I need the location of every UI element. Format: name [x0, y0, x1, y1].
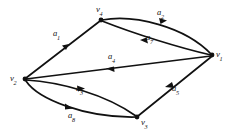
vertex-label-v4: v4 [96, 5, 103, 16]
graph-canvas [0, 0, 230, 135]
vertex-dot-v3 [135, 115, 140, 120]
arc-label-a7: a7 [146, 33, 153, 44]
arc-label-a4: a4 [108, 52, 115, 63]
arc-label-a8-sub: 8 [72, 116, 75, 123]
arc-label-a3: a3 [76, 84, 83, 95]
vertex-label-v3-sub: 3 [145, 123, 148, 130]
edge-a2 [102, 19, 211, 54]
vertex-label-v2-sub: 2 [14, 79, 17, 86]
arc-label-a1-sub: 1 [57, 34, 60, 41]
arrowhead-a8 [65, 104, 73, 110]
arc-label-a8: a8 [68, 111, 75, 122]
vertex-label-v1: v1 [216, 50, 223, 61]
arc-label-a2-sub: 2 [161, 13, 164, 20]
edge-a4 [26, 56, 211, 79]
edge-a7 [102, 21, 211, 55]
edge-a1 [26, 21, 100, 78]
vertex-dot-v2 [23, 77, 28, 82]
arc-label-a4-sub: 4 [112, 57, 115, 64]
vertex-label-v2: v2 [10, 74, 17, 85]
vertex-dot-v1 [210, 53, 215, 58]
directed-graph-figure: v4 v1 v2 v3 a1 a2 a7 a4 a5 a3 a8 [0, 0, 230, 135]
vertex-dot-v4 [99, 18, 104, 23]
arc-label-a2: a2 [157, 8, 164, 19]
arc-label-a7-sub: 7 [150, 38, 153, 45]
arc-label-a3-sub: 3 [80, 89, 83, 96]
arc-label-a1: a1 [53, 29, 60, 40]
arc-label-a5-sub: 5 [176, 89, 179, 96]
arc-label-a5: a5 [172, 84, 179, 95]
vertex-label-v1-sub: 1 [220, 55, 223, 62]
vertex-label-v4-sub: 4 [100, 10, 103, 17]
vertex-label-v3: v3 [141, 118, 148, 129]
